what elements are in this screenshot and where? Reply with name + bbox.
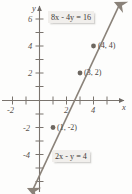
y-tick-label-neg2: -2: [23, 124, 30, 133]
y-tick-label-6: 6: [28, 15, 32, 24]
graph-figure: y x -2 2 4 6 4 2 -2 -4 (1, -2) (3, 2) (4…: [0, 0, 132, 194]
equation-label-bottom: 2x - y = 4: [52, 150, 90, 162]
point-label-3-2: (3, 2): [84, 69, 101, 77]
equation-line: [33, 5, 120, 191]
point-label-4-4: (4, 4): [98, 42, 115, 50]
x-tick-label-4: 4: [91, 106, 95, 115]
x-tick-label-neg2: -2: [7, 106, 14, 115]
y-axis: [36, 6, 44, 192]
x-axis: [2, 97, 124, 105]
y-axis-label: y: [32, 4, 36, 13]
point-1-neg2: [51, 125, 56, 130]
x-tick-label-2: 2: [64, 106, 68, 115]
equation-label-top: 8x - 4y = 16: [48, 11, 94, 23]
point-4-4: [91, 44, 96, 49]
y-tick-label-2: 2: [28, 69, 32, 78]
y-tick-label-4: 4: [28, 42, 32, 51]
y-tick-label-neg4: -4: [23, 151, 30, 160]
coordinate-plane-svg: [0, 0, 132, 194]
point-3-2: [78, 71, 83, 76]
x-axis-label: x: [122, 103, 126, 112]
data-points: [51, 44, 96, 130]
point-label-1-neg2: (1, -2): [57, 124, 77, 132]
line-2x-minus-y-equals-4: [33, 5, 120, 191]
